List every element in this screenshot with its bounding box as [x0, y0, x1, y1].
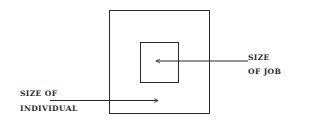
- job-label-line2: OF JOB: [248, 66, 281, 78]
- individual-label-line1: SIZE OF: [20, 88, 57, 100]
- inner-box-job: [141, 43, 179, 83]
- job-label-line1: SIZE: [248, 52, 270, 64]
- outer-box-individual: [110, 11, 210, 114]
- individual-label-line2: INDIVIDUAL: [20, 103, 78, 115]
